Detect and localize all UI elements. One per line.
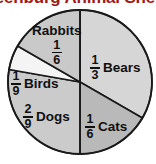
- fraction-denominator: 9: [12, 85, 21, 98]
- fraction-numerator: 1: [91, 54, 100, 67]
- pie-label-rabbits-name: Rabbits: [32, 24, 82, 38]
- pie-label-bears-fraction: 1 3: [90, 54, 100, 82]
- pie-label-cats-fraction: 1 6: [85, 113, 95, 141]
- pie-label-rabbits: Rabbits 1 6: [32, 24, 82, 66]
- fraction-numerator: 1: [86, 113, 95, 126]
- pie-label-bears: 1 3 Bears: [90, 54, 141, 82]
- pie-chart: Rabbits 1 6 1 3 Bears 1 9 Birds: [0, 0, 156, 164]
- pie-chart-screenshot: Greenburg Animal Shelter Rabbits 1 6: [0, 0, 156, 164]
- fraction-denominator: 3: [91, 69, 100, 82]
- fraction-numerator: 1: [52, 39, 61, 52]
- fraction-numerator: 1: [12, 70, 21, 83]
- pie-label-cats: 1 6 Cats: [85, 113, 127, 141]
- pie-label-birds: 1 9 Birds: [11, 70, 59, 98]
- pie-label-dogs: 2 9 Dogs: [23, 103, 70, 131]
- fraction-denominator: 6: [52, 54, 61, 67]
- fraction-denominator: 9: [24, 118, 33, 131]
- pie-label-bears-name: Bears: [103, 61, 141, 75]
- pie-label-birds-fraction: 1 9: [11, 70, 21, 98]
- pie-label-cats-name: Cats: [98, 120, 127, 134]
- pie-label-birds-name: Birds: [24, 77, 59, 91]
- fraction-denominator: 6: [86, 128, 95, 141]
- pie-label-dogs-fraction: 2 9: [23, 103, 33, 131]
- fraction-numerator: 2: [24, 103, 33, 116]
- pie-label-dogs-name: Dogs: [36, 110, 70, 124]
- pie-label-rabbits-fraction: 1 6: [52, 39, 62, 67]
